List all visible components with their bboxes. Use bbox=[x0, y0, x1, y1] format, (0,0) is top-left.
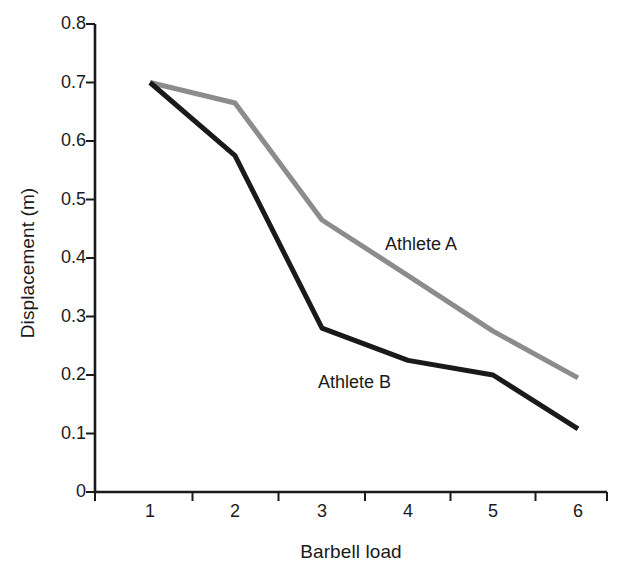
y-tick-label: 0.8 bbox=[26, 13, 86, 34]
x-tick-label: 5 bbox=[473, 501, 513, 522]
y-tick-label: 0.1 bbox=[26, 423, 86, 444]
y-tick-label: 0.2 bbox=[26, 364, 86, 385]
axis-lines bbox=[95, 24, 607, 492]
line-chart: 00.10.20.30.40.50.60.70.8 123456 Athlete… bbox=[0, 0, 626, 578]
x-axis-title: Barbell load bbox=[95, 541, 607, 563]
x-tick-label: 2 bbox=[215, 501, 255, 522]
y-tick-label: 0.7 bbox=[26, 72, 86, 93]
x-tick-label: 6 bbox=[558, 501, 598, 522]
series-annotation-athlete-a: Athlete A bbox=[385, 234, 457, 255]
series-line-athlete-a bbox=[150, 83, 578, 378]
y-tick-label: 0.6 bbox=[26, 130, 86, 151]
series-annotation-athlete-b: Athlete B bbox=[318, 372, 391, 393]
x-tick-label: 4 bbox=[388, 501, 428, 522]
y-tick-label: 0 bbox=[26, 481, 86, 502]
y-axis-ticks bbox=[86, 24, 95, 492]
x-tick-label: 3 bbox=[302, 501, 342, 522]
y-axis-title: Displacement (m) bbox=[17, 173, 39, 353]
x-tick-label: 1 bbox=[130, 501, 170, 522]
plot-area bbox=[0, 0, 626, 578]
